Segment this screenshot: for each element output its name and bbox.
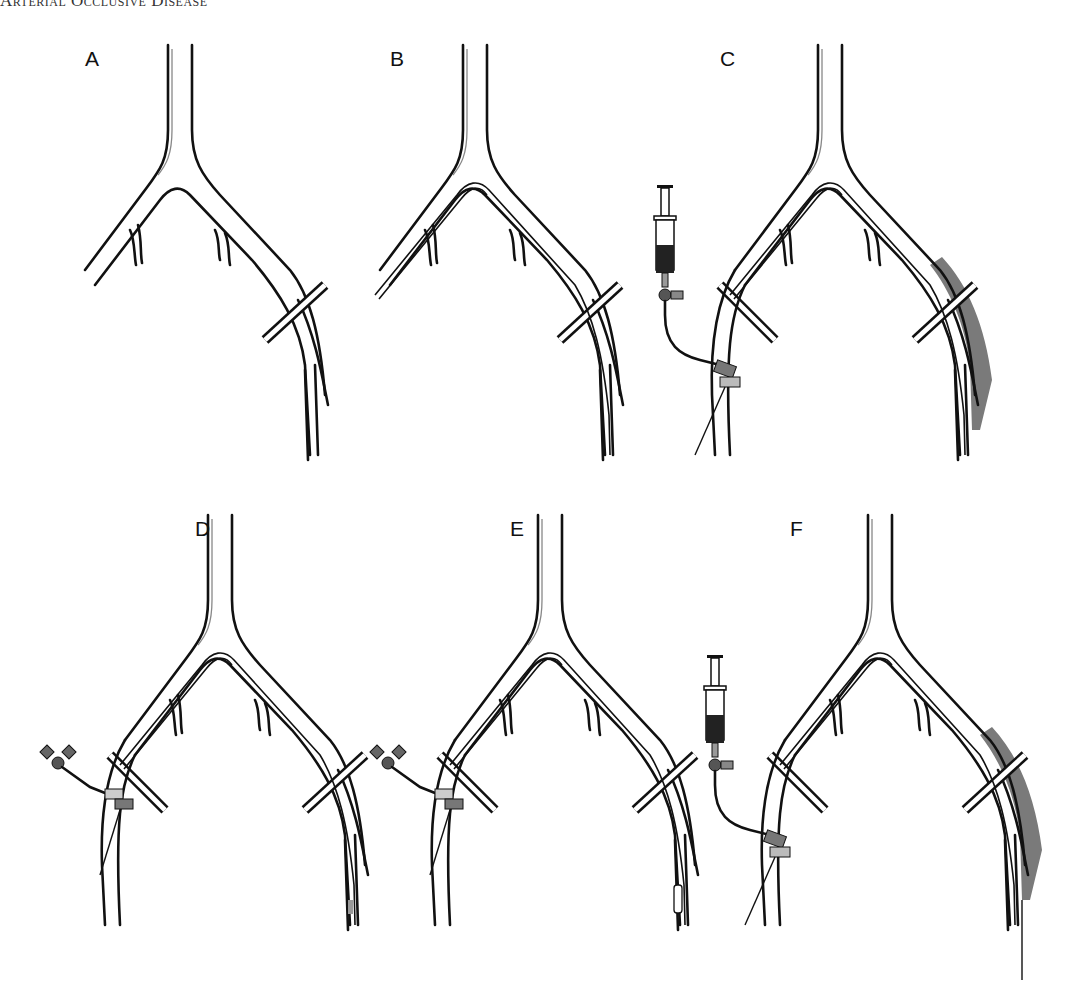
balloon-tip xyxy=(674,885,682,913)
balloon-tip xyxy=(348,900,353,914)
panel-c: C xyxy=(680,35,1040,495)
running-head: Arterial Occlusive Disease xyxy=(0,0,208,11)
thrombus-shading xyxy=(980,727,1042,900)
vessel-diagram xyxy=(20,505,380,975)
panel-f: F xyxy=(730,505,1082,965)
vessel-diagram xyxy=(390,505,750,975)
vascular-clamp-left xyxy=(720,285,775,340)
panel-b: B xyxy=(340,35,700,495)
vessel-diagram xyxy=(730,505,1082,975)
vessel-diagram xyxy=(340,35,700,505)
panel-d: D xyxy=(20,505,380,965)
vascular-clamp-left xyxy=(770,755,825,810)
panel-e: E xyxy=(390,505,750,965)
vessel-diagram xyxy=(680,35,1040,505)
thrombus-shading xyxy=(930,257,992,430)
